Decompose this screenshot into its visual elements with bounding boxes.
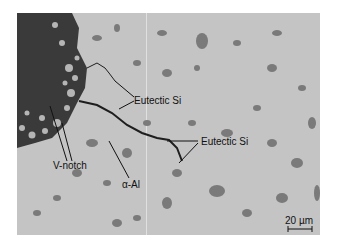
micrograph-image: Eutectic Si Eutectic Si V-notch α-Al 20 … <box>17 13 320 235</box>
alpha-al-label: α-Al <box>122 180 140 190</box>
microstructure-graphic <box>17 13 320 235</box>
v-notch-label: V-notch <box>53 161 87 171</box>
eutectic-si-label-upper: Eutectic Si <box>134 96 181 106</box>
scale-bar-label: 20 µm <box>285 216 313 226</box>
eutectic-si-label-lower: Eutectic Si <box>201 137 248 147</box>
